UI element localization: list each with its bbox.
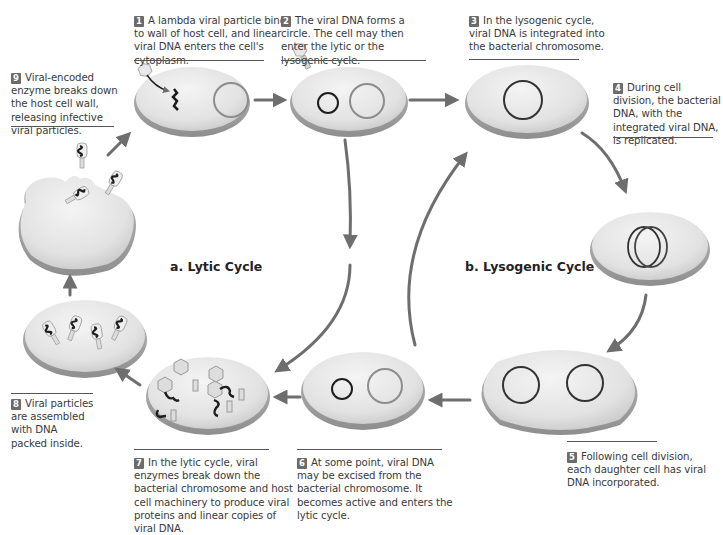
step-2-callout-line xyxy=(281,60,426,61)
step-3-badge: 3 xyxy=(469,16,479,27)
step-6-caption: 6At some point, viral DNA may be excised… xyxy=(297,456,457,522)
step-5-badge: 5 xyxy=(567,452,577,463)
step-4-callout-line xyxy=(613,137,713,138)
cell-step-1 xyxy=(134,61,250,137)
step-8-text: Viral particles are assembled with DNA p… xyxy=(11,398,93,449)
step-2-text: The viral DNA forms a circle. The cell m… xyxy=(281,15,405,66)
step-1-badge: 1 xyxy=(134,16,144,27)
cell-step-8 xyxy=(23,300,147,378)
step-9-callout-line xyxy=(11,126,114,127)
cell-step-7 xyxy=(146,357,270,435)
step-5-text: Following cell division, each daughter c… xyxy=(567,451,706,488)
step-7-callout-line xyxy=(134,449,269,450)
step-2-caption: 2The viral DNA forms a circle. The cell … xyxy=(281,14,431,67)
step-8-caption: 8Viral particles are assembled with DNA … xyxy=(11,397,96,450)
lytic-cycle-title: a. Lytic Cycle xyxy=(170,259,262,274)
step-8-badge: 8 xyxy=(11,399,21,410)
step-4-badge: 4 xyxy=(613,83,623,94)
step-6-text: At some point, viral DNA may be excised … xyxy=(297,457,452,521)
step-6-callout-line xyxy=(297,449,442,450)
step-3-text: In the lysogenic cycle, viral DNA is int… xyxy=(469,15,605,52)
step-3-callout-line xyxy=(469,59,579,60)
step-9-badge: 9 xyxy=(11,73,21,84)
cell-step-3 xyxy=(465,65,589,139)
cell-step-5 xyxy=(481,350,637,435)
cell-step-6 xyxy=(301,352,425,430)
step-7-badge: 7 xyxy=(134,458,144,469)
step-1-text: A lambda viral particle binds to wall of… xyxy=(134,15,291,66)
step-1-callout-line xyxy=(134,60,264,61)
step-9-caption: 9Viral-encoded enzyme breaks down the ho… xyxy=(11,71,121,137)
lysogenic-cycle-title: b. Lysogenic Cycle xyxy=(465,259,594,274)
step-7-caption: 7In the lytic cycle, viral enzymes break… xyxy=(134,456,294,535)
step-7-text: In the lytic cycle, viral enzymes break … xyxy=(134,457,293,534)
cell-step-4 xyxy=(590,212,710,286)
step-6-badge: 6 xyxy=(297,458,307,469)
step-2-badge: 2 xyxy=(281,16,291,27)
cell-step-9 xyxy=(19,143,136,276)
step-1-caption: 1A lambda viral particle binds to wall o… xyxy=(134,14,294,67)
step-8-callout-line xyxy=(11,393,93,394)
step-5-callout-line xyxy=(567,441,657,442)
step-3-caption: 3In the lysogenic cycle, viral DNA is in… xyxy=(469,14,609,54)
step-5-caption: 5Following cell division, each daughter … xyxy=(567,450,717,490)
